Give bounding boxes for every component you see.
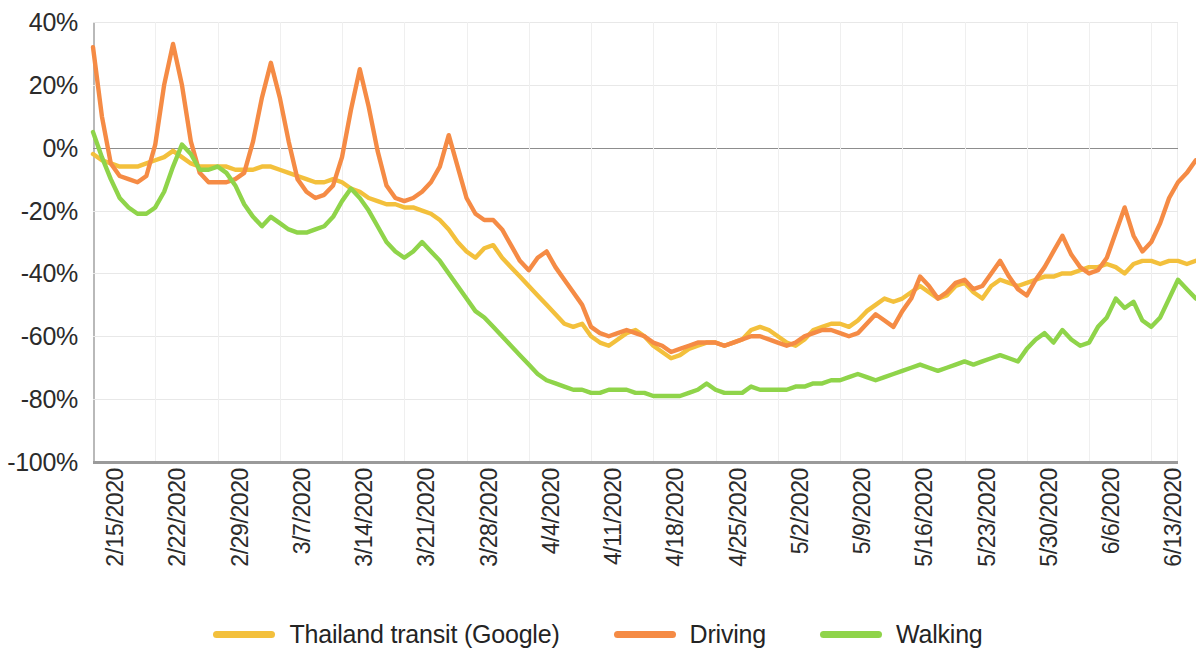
x-tick-label: 3/14/2020 bbox=[351, 468, 378, 567]
series-line bbox=[93, 44, 1196, 352]
x-tick-label: 3/28/2020 bbox=[476, 468, 503, 567]
x-tick-label: 3/21/2020 bbox=[413, 468, 440, 567]
x-tick-label: 2/15/2020 bbox=[102, 468, 129, 567]
y-tick-label: -60% bbox=[21, 322, 78, 351]
legend-color-swatch bbox=[820, 631, 882, 638]
x-tick-label: 4/25/2020 bbox=[725, 468, 752, 567]
legend-label: Driving bbox=[690, 620, 766, 649]
chart-legend: Thailand transit (Google)DrivingWalking bbox=[0, 614, 1196, 655]
x-axis: 2/15/20202/22/20202/29/20203/7/20203/14/… bbox=[93, 468, 1178, 608]
x-tick-label: 4/18/2020 bbox=[662, 468, 689, 567]
y-tick-label: -40% bbox=[21, 259, 78, 288]
series-line bbox=[93, 151, 1196, 358]
x-tick-label: 2/29/2020 bbox=[227, 468, 254, 567]
y-tick-label: 40% bbox=[29, 8, 78, 37]
legend-label: Walking bbox=[896, 620, 983, 649]
series-lines bbox=[93, 22, 1178, 462]
y-tick-label: -20% bbox=[21, 196, 78, 225]
x-tick-label: 6/13/2020 bbox=[1160, 468, 1187, 567]
x-tick-label: 5/30/2020 bbox=[1036, 468, 1063, 567]
y-tick-label: 20% bbox=[29, 70, 78, 99]
x-tick-label: 5/23/2020 bbox=[974, 468, 1001, 567]
x-tick-label: 5/2/2020 bbox=[787, 468, 814, 554]
x-tick-label: 4/4/2020 bbox=[538, 468, 565, 554]
legend-item[interactable]: Thailand transit (Google) bbox=[213, 620, 559, 649]
legend-label: Thailand transit (Google) bbox=[289, 620, 559, 649]
legend-item[interactable]: Driving bbox=[614, 620, 766, 649]
x-tick-label: 4/11/2020 bbox=[600, 468, 627, 565]
y-axis: 40%20%0%-20%-40%-60%-80%-100% bbox=[0, 0, 86, 470]
x-tick-label: 5/9/2020 bbox=[849, 468, 876, 554]
legend-color-swatch bbox=[614, 631, 676, 638]
plot-area bbox=[93, 22, 1178, 462]
series-line bbox=[93, 132, 1196, 396]
x-tick-label: 2/22/2020 bbox=[164, 468, 191, 567]
x-axis-line bbox=[93, 461, 1178, 464]
y-tick-label: 0% bbox=[42, 133, 78, 162]
legend-color-swatch bbox=[213, 631, 275, 638]
x-tick-label: 3/7/2020 bbox=[289, 468, 316, 554]
x-tick-label: 6/6/2020 bbox=[1098, 468, 1125, 554]
x-tick-label: 5/16/2020 bbox=[911, 468, 938, 567]
mobility-trends-line-chart: 40%20%0%-20%-40%-60%-80%-100% 2/15/20202… bbox=[0, 0, 1196, 655]
legend-item[interactable]: Walking bbox=[820, 620, 983, 649]
y-tick-label: -80% bbox=[21, 385, 78, 414]
y-tick-label: -100% bbox=[7, 448, 78, 477]
